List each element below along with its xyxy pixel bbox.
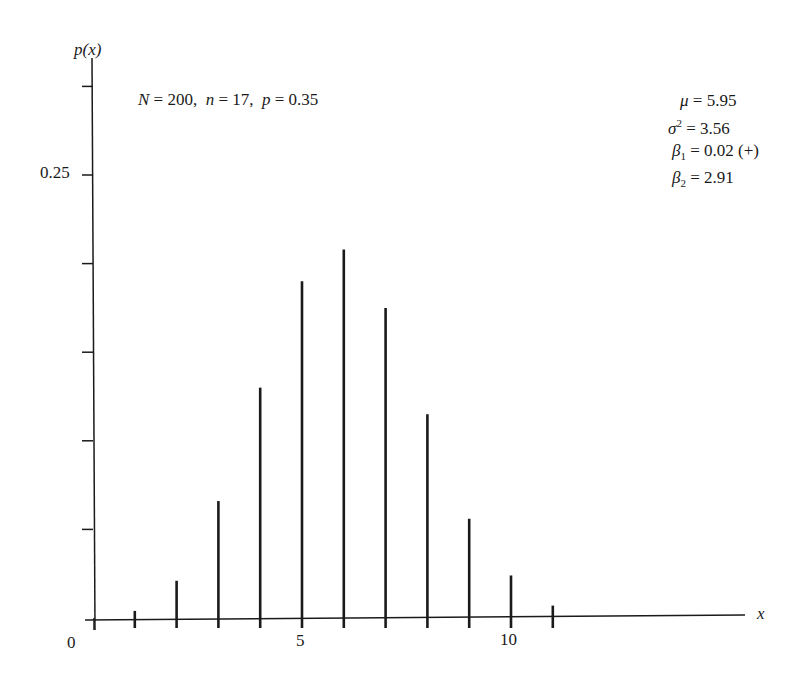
x-axis-label: x <box>757 604 765 624</box>
stat-beta2: β2 = 2.91 <box>668 167 759 194</box>
param-p-value: = 0.35 <box>271 90 319 109</box>
param-n-value: = 17, <box>214 90 262 109</box>
x-tick-label-5: 5 <box>296 631 305 651</box>
bars <box>94 249 553 630</box>
y-axis-label: p(x) <box>74 40 101 60</box>
param-p-symbol: p <box>262 90 271 109</box>
stat-beta1: β1 = 0.02 (+) <box>668 140 759 167</box>
y-ticks <box>82 86 93 529</box>
mu-value: = 5.95 <box>689 91 737 110</box>
x-tick-label-10: 10 <box>500 630 517 650</box>
beta1-value: = 0.02 (+) <box>686 141 759 160</box>
param-N-value: = 200, <box>149 90 205 109</box>
param-n-symbol: n <box>206 90 215 109</box>
stats-annotation: μ = 5.95 σ2 = 3.56 β1 = 0.02 (+) β2 = 2.… <box>668 90 759 194</box>
x-tick-label-0: 0 <box>67 633 76 653</box>
stat-sigma: σ2 = 3.56 <box>668 112 759 140</box>
beta2-value: = 2.91 <box>686 168 734 187</box>
y-axis <box>92 58 95 630</box>
stat-mu: μ = 5.95 <box>668 90 759 112</box>
param-N-symbol: N <box>138 90 149 109</box>
mu-symbol: μ <box>680 91 689 110</box>
params-annotation: N = 200, n = 17, p = 0.35 <box>138 90 318 110</box>
x-axis <box>85 615 745 620</box>
y-tick-label-025: 0.25 <box>40 163 70 183</box>
sigma-value: = 3.56 <box>682 119 730 138</box>
